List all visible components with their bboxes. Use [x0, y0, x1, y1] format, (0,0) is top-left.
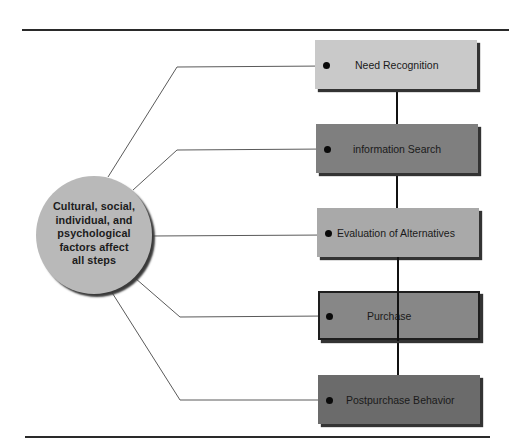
connector-line-need-recognition	[108, 66, 327, 177]
factor-text-line: all steps	[44, 254, 144, 267]
step-purchase: Purchase	[318, 291, 480, 340]
connector-line-postpurchase	[111, 291, 327, 400]
buying-process-diagram: Cultural, social, individual, and psycho…	[0, 0, 509, 446]
step-label: Evaluation of Alternatives	[337, 208, 477, 257]
bullet-dot-icon	[323, 62, 330, 69]
step-connector-line	[397, 341, 399, 376]
bullet-dot-icon	[326, 313, 333, 320]
connector-line-information-search	[133, 149, 327, 190]
bottom-rule	[25, 436, 490, 438]
step-postpurchase-behavior: Postpurchase Behavior	[318, 375, 480, 424]
factor-text-line: factors affect	[44, 241, 144, 254]
step-connector-line	[396, 89, 398, 125]
step-label: Purchase	[367, 293, 467, 338]
influencing-factors-circle: Cultural, social, individual, and psycho…	[36, 176, 152, 294]
factor-text-line: individual, and	[44, 214, 144, 227]
step-label: Need Recognition	[355, 40, 475, 89]
bullet-dot-icon	[326, 397, 333, 404]
step-connector-line	[397, 257, 399, 341]
step-label: information Search	[353, 124, 473, 173]
factor-text-line: Cultural, social,	[44, 200, 144, 213]
bullet-dot-icon	[324, 146, 331, 153]
step-need-recognition: Need Recognition	[315, 40, 477, 89]
step-connector-line	[396, 173, 398, 209]
step-evaluation-of-alternatives: Evaluation of Alternatives	[317, 208, 479, 257]
step-information-search: information Search	[316, 124, 478, 173]
influencing-factors-text: Cultural, social, individual, and psycho…	[44, 200, 144, 267]
step-label: Postpurchase Behavior	[346, 375, 476, 424]
bullet-dot-icon	[325, 230, 332, 237]
factor-text-line: psychological	[44, 227, 144, 240]
connector-line-purchase	[135, 278, 327, 317]
connector-line-evaluation	[151, 235, 327, 236]
top-rule	[22, 29, 509, 31]
